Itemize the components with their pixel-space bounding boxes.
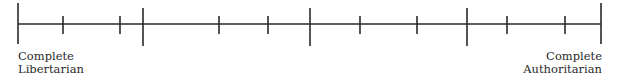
libertarian-authoritarian-scale [0, 0, 619, 48]
right-label-line2: Authoritarian [523, 63, 602, 76]
right-end-label: Complete Authoritarian [523, 50, 602, 75]
left-label-line1: Complete [18, 50, 84, 63]
left-label-line2: Libertarian [18, 63, 84, 76]
left-end-label: Complete Libertarian [18, 50, 84, 75]
right-label-line1: Complete [523, 50, 602, 63]
